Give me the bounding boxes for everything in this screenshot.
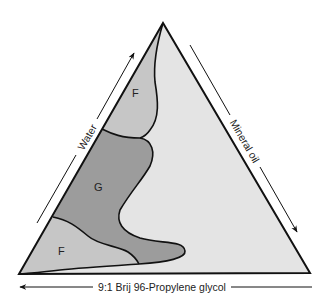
ternary-diagram: F G F Water Mineral oil 9:1 Brij 96-Prop… <box>0 0 322 300</box>
surfactant-axis-label: 9:1 Brij 96-Propylene glycol <box>98 281 226 293</box>
region-label-f-lower: F <box>58 245 65 257</box>
region-label-f-upper: F <box>132 87 139 99</box>
surfactant-axis: 9:1 Brij 96-Propylene glycol <box>20 281 312 293</box>
region-label-g: G <box>94 181 103 193</box>
